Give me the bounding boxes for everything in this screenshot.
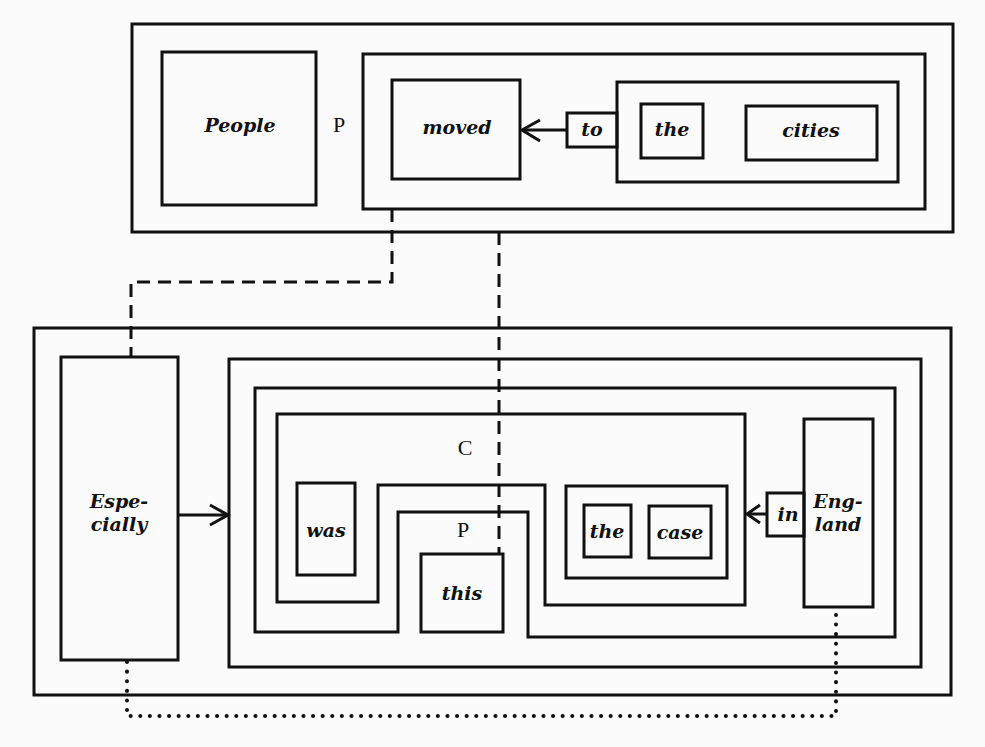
word-the-bottom: the (590, 520, 625, 543)
dotted-connector (127, 611, 836, 716)
word-cities: cities (782, 119, 840, 142)
word-this: this (442, 582, 483, 605)
label-c: C (458, 435, 473, 461)
word-the-top: the (655, 118, 690, 141)
word-to: to (581, 118, 602, 141)
label-p-bottom: P (457, 517, 469, 543)
clause-box-3 (255, 388, 895, 637)
word-england: Eng- land (813, 490, 862, 536)
word-people: People (204, 114, 275, 137)
word-was: was (306, 519, 345, 542)
diagram-canvas: People P moved to the cities Espe- ciall… (0, 0, 985, 747)
word-in: in (777, 503, 798, 526)
word-moved: moved (422, 116, 491, 139)
word-especially: Espe- cially (90, 490, 148, 536)
diagram-lines (0, 0, 985, 747)
word-case: case (657, 521, 704, 544)
label-p-top: P (333, 112, 345, 138)
